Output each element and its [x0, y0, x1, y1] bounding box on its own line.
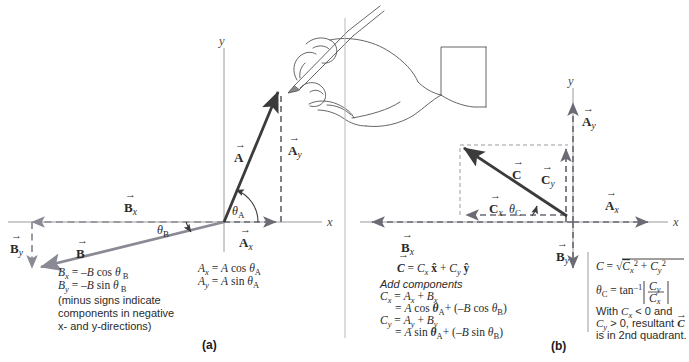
svg-text:Cy: Cy: [541, 172, 555, 189]
panel-b-label-Cy: → Cy: [541, 160, 555, 189]
panel-a-caption: (a): [202, 338, 217, 352]
svg-text:→: →: [557, 237, 568, 249]
panel-a-label-Ay: → Ay: [288, 131, 302, 160]
panel-a-equations-A: Ax = A cos θA Ay = A sin θA: [197, 262, 262, 290]
panel-b-eq-cy-expanded: = A sin θA+ (–B sin θB): [395, 326, 503, 341]
panel-a-note: (minus signs indicate components in nega…: [58, 294, 174, 332]
figure-canvas: x y θA θB → A → Ay → Ax: [0, 0, 689, 362]
panel-a-x-axis-label: x: [326, 215, 333, 229]
panel-a-angle-label-thetaA: θA: [232, 204, 245, 220]
vector-components-figure: x y θA θB → A → Ay → Ax: [0, 0, 689, 362]
panel-a-note-line-2: components in negative: [58, 307, 174, 319]
panel-b-label-C: → C: [512, 155, 524, 182]
svg-text:B: B: [76, 246, 85, 261]
panel-b-quadrant-note-line-3: is in 2nd quadrant.: [596, 329, 687, 341]
panel-a-vector-A: [224, 92, 278, 222]
svg-text:By = –B sin θ B: By = –B sin θ B: [58, 279, 127, 294]
svg-text:→: →: [490, 189, 501, 201]
panel-a-note-line-3: x- and y-directions): [58, 320, 152, 332]
svg-text:→: →: [398, 248, 409, 260]
svg-text:Ax: Ax: [239, 235, 253, 252]
svg-text:Ax: Ax: [605, 198, 619, 215]
svg-text:→: →: [235, 138, 246, 150]
panel-a-label-Ax: → Ax: [239, 223, 253, 252]
panel-a-y-axis-label: y: [217, 34, 225, 48]
svg-text:By: By: [10, 241, 24, 258]
panel-a-equations-B: Bx = –B cos θ B By = –B sin θ B: [58, 266, 129, 294]
svg-text:→: →: [402, 228, 413, 240]
svg-text:Cx: Cx: [489, 201, 503, 218]
svg-text:Cx: Cx: [649, 292, 661, 306]
svg-text:→: →: [676, 308, 687, 320]
panel-b-label-By: → By: [556, 237, 570, 266]
svg-text:θC = tan–1: θC = tan–1: [596, 282, 642, 299]
panel-b-angle-equation: θC = tan–1 Cy Cx: [596, 280, 668, 306]
panel-b-magnitude-equation: C = √Cx2 + Cy2: [596, 258, 684, 275]
panel-b-eq-cx-expanded: = A cos θA+ (–B cos θB): [395, 302, 507, 317]
panel-b-component-equations: Cx = Ax + Bx = A cos θA+ (–B cos θB) Cy …: [380, 290, 507, 341]
svg-text:→: →: [542, 160, 553, 172]
svg-text:→: →: [11, 229, 22, 241]
panel-a-note-line-1: (minus signs indicate: [58, 294, 161, 306]
panel-b-label-Ax: → Ax: [605, 186, 619, 215]
panel-b-label-Cx: → Cx: [489, 189, 503, 218]
panel-b-angle-label-thetaC: θC: [509, 202, 521, 218]
svg-text:Ay: Ay: [288, 143, 302, 160]
panel-b-y-axis-label: y: [566, 74, 574, 88]
svg-text:→: →: [125, 188, 136, 200]
svg-text:→: →: [513, 155, 524, 167]
panel-b-x-axis-label: x: [672, 215, 679, 229]
svg-text:C: C: [512, 167, 521, 182]
panel-b-caption: (b): [551, 339, 566, 353]
panel-a-label-By: → By: [10, 229, 24, 258]
panel-b-label-Ay: → Ay: [582, 102, 596, 131]
svg-text:C = √Cx2 + Cy2: C = √Cx2 + Cy2: [596, 258, 666, 275]
svg-text:C = Cx x̂ + Cy ŷ: C = Cx x̂ + Cy ŷ: [397, 262, 470, 277]
panel-a-angle-label-thetaB: θB: [157, 223, 169, 239]
svg-text:→: →: [77, 234, 88, 246]
svg-text:→: →: [606, 186, 617, 198]
panel-b-quadrant-note: With Cx < 0 and Cy > 0, resultant C → is…: [596, 305, 687, 341]
panel-a-vector-B: [41, 222, 224, 267]
panel-a-label-Bx: → Bx: [124, 188, 138, 217]
svg-text:Bx: Bx: [124, 200, 138, 217]
svg-text:By: By: [556, 249, 570, 266]
svg-text:→: →: [289, 131, 300, 143]
panel-a-label-A: → A: [234, 138, 246, 165]
hand-holding-pencil-icon: [288, 6, 486, 127]
svg-text:→: →: [240, 223, 251, 235]
svg-text:A: A: [234, 150, 244, 165]
svg-text:Ay: Ay: [582, 114, 596, 131]
svg-text:→: →: [583, 102, 594, 114]
svg-text:Ay = A sin θA: Ay = A sin θA: [197, 275, 260, 290]
panel-b-vector-equation: → C = Cx x̂ + Cy ŷ: [397, 248, 470, 277]
panel-b: x y θC → Ay → Ax → Bx: [360, 74, 687, 353]
panel-b-add-components-heading: Add components: [379, 278, 463, 290]
